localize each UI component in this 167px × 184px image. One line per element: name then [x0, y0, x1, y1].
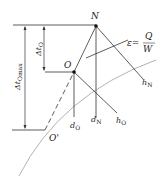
- label-d-o: dO: [70, 121, 80, 131]
- label-n: N: [90, 11, 100, 21]
- o-h-line: [74, 72, 117, 113]
- point-o: [72, 70, 76, 74]
- label-delta-t-omax: ΔtOmax: [13, 63, 23, 91]
- boundary-curve: [19, 60, 156, 176]
- label-o: O: [64, 60, 72, 70]
- delta-t-omax-arrow: [24, 26, 27, 129]
- label-h-o: hO: [116, 116, 126, 126]
- diagram-canvas: N O O' dO dN hO hN ε= Q W ΔtO ΔtOmax: [0, 0, 167, 184]
- label-delta-t-o: ΔtO: [34, 42, 44, 57]
- label-o-prime: O': [49, 133, 59, 143]
- label-h-n: hN: [142, 78, 152, 88]
- equation-denominator: W: [143, 44, 153, 54]
- n-h-line: [96, 26, 143, 79]
- point-n: [94, 24, 98, 28]
- n-to-o-line: [74, 26, 96, 72]
- equation-lhs: ε=: [127, 38, 139, 48]
- equation-numerator: Q: [145, 31, 153, 41]
